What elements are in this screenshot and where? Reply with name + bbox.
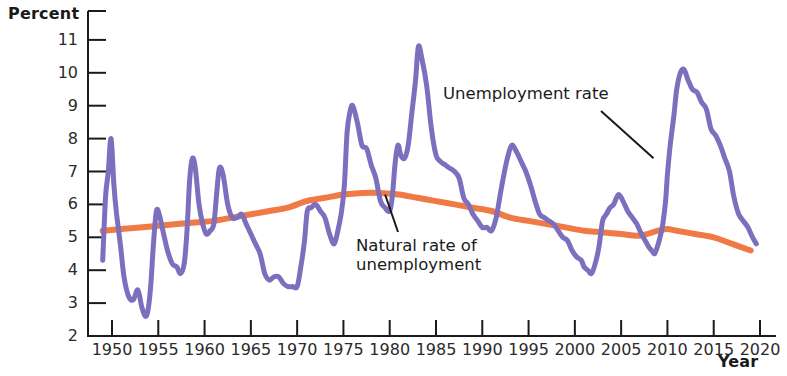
unemployment-rate-chart: Percent Year 111098765432195019551960196…	[0, 0, 787, 376]
unemployment-rate-line	[103, 46, 757, 317]
annotation-leader-lines	[385, 111, 653, 232]
unemployment-annotation-leader	[601, 111, 654, 158]
data-series	[103, 46, 757, 317]
plot-area	[0, 0, 787, 376]
